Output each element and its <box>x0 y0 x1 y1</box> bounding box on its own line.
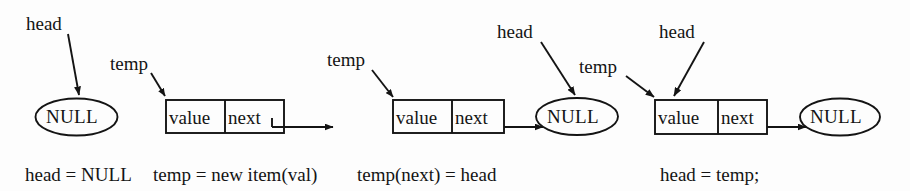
pointer-label-temp-1: temp <box>110 54 148 73</box>
node-3-next-label: next <box>721 108 754 127</box>
head-pointer-arrow-3 <box>674 42 704 96</box>
null-label-1: NULL <box>46 107 98 126</box>
pointer-label-temp-3: temp <box>579 57 617 76</box>
node-1-next-label: next <box>228 108 261 127</box>
temp-pointer-arrow-1 <box>151 73 165 96</box>
null-label-3: NULL <box>810 107 862 126</box>
temp-pointer-arrow-3 <box>626 76 654 97</box>
caption-segment-stage-1: head = NULL <box>25 165 132 184</box>
head-pointer-arrow-2 <box>541 42 575 95</box>
node-2-next-label: next <box>455 108 488 127</box>
head-pointer-arrow-1 <box>68 34 79 95</box>
pointer-label-head-2: head <box>497 22 533 41</box>
null-label-2: NULL <box>547 107 599 126</box>
pointer-label-head-3: head <box>659 22 695 41</box>
pointer-label-temp-2: temp <box>327 50 365 69</box>
linked-list-diagram-svg <box>0 0 910 191</box>
node-1-value-label: value <box>169 108 210 127</box>
caption-segment-stage-3: temp(next) = head <box>357 165 496 184</box>
pointer-label-head-1: head <box>26 14 62 33</box>
node-3-value-label: value <box>658 108 699 127</box>
caption-segment-stage-4: head = temp; <box>660 165 759 184</box>
temp-pointer-arrow-2 <box>372 70 393 97</box>
node-2-value-label: value <box>396 108 437 127</box>
caption-segment-stage-2: temp = new item(val) <box>153 165 317 184</box>
diagram-canvas: head temp temp head temp head NULL NULL … <box>0 0 910 191</box>
